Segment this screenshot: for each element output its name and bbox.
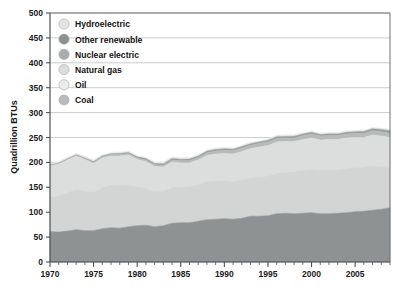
energy-consumption-stacked-area-chart: 050100150200250300350400450500 197019751… (0, 0, 407, 289)
y-tick-label-200: 200 (29, 157, 43, 167)
x-tick-label-1985: 1985 (171, 269, 190, 279)
legend-swatch-coal (59, 95, 69, 105)
legend-swatch-hydroelectric (59, 19, 69, 29)
x-tick-label-1970: 1970 (41, 269, 60, 279)
x-tick-label-1980: 1980 (128, 269, 147, 279)
y-axis-title: Quadrillion BTUs (9, 100, 19, 174)
x-tick-label-1990: 1990 (215, 269, 234, 279)
legend-label-nuclear-electric: Nuclear electric (75, 50, 139, 60)
legend-label-hydroelectric: Hydroelectric (75, 19, 130, 29)
y-tick-label-400: 400 (29, 58, 43, 68)
x-tick-label-2000: 2000 (302, 269, 321, 279)
y-tick-label-50: 50 (34, 232, 44, 242)
y-tick-label-150: 150 (29, 182, 43, 192)
legend-label-natural-gas: Natural gas (75, 65, 122, 75)
y-tick-label-100: 100 (29, 207, 43, 217)
legend-swatch-nuclear-electric (59, 49, 69, 59)
x-tick-label-1995: 1995 (258, 269, 277, 279)
legend-label-coal: Coal (75, 95, 94, 105)
legend-label-other-renewable: Other renewable (75, 35, 143, 45)
y-tick-label-450: 450 (29, 33, 43, 43)
x-tick-label-1975: 1975 (84, 269, 103, 279)
y-tick-label-300: 300 (29, 108, 43, 118)
chart-svg: 050100150200250300350400450500 197019751… (0, 0, 407, 289)
y-tick-label-500: 500 (29, 8, 43, 18)
y-tick-label-0: 0 (38, 257, 43, 267)
legend-swatch-natural-gas (59, 65, 69, 75)
y-tick-label-350: 350 (29, 83, 43, 93)
y-tick-label-250: 250 (29, 133, 43, 143)
legend-swatch-other-renewable (59, 34, 69, 44)
legend-swatch-oil (59, 80, 69, 90)
legend-label-oil: Oil (75, 80, 86, 90)
x-tick-label-2005: 2005 (346, 269, 365, 279)
